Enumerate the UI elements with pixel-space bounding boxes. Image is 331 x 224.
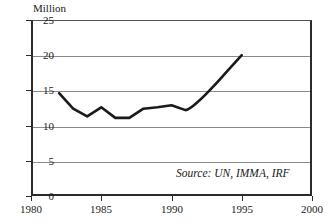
x-axis-tick-label: 1985	[78, 203, 124, 216]
y-axis-tick-label: 25	[30, 15, 54, 26]
x-axis-tick	[101, 196, 102, 201]
x-axis-tick-label: 1990	[149, 203, 195, 216]
y-axis-tick-label: 5	[30, 156, 54, 167]
x-axis-tick-label: 1995	[219, 203, 265, 216]
x-axis-tick-label: 1980	[8, 203, 54, 216]
source-note: Source: UN, IMMA, IRF	[176, 166, 290, 180]
y-axis-tick-label: 20	[30, 50, 54, 61]
y-axis-tick-label: 10	[30, 121, 54, 132]
gridline	[33, 162, 310, 163]
x-axis-tick	[242, 196, 243, 201]
gridline	[33, 56, 310, 57]
gridline	[33, 127, 310, 128]
x-axis-tick-label: 2000	[289, 203, 331, 216]
x-axis-tick	[31, 196, 32, 201]
x-axis-tick	[312, 196, 313, 201]
y-axis-unit-label: Million	[33, 1, 66, 15]
gridline	[33, 91, 310, 92]
y-axis-tick-label: 0	[30, 191, 54, 202]
chart-figure: Million 0510152025 19801985199019952000 …	[0, 0, 331, 224]
x-axis-tick	[172, 196, 173, 201]
y-axis-tick-label: 15	[30, 85, 54, 96]
